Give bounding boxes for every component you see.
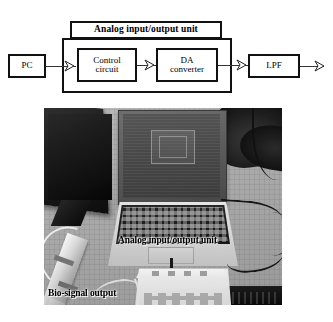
analog-unit-indicator-lights	[152, 271, 210, 276]
block-lpf-label: LPF	[266, 61, 282, 70]
block-control-circuit-label-line2: circuit	[93, 65, 121, 74]
block-pc: PC	[8, 54, 46, 78]
photo-label-analog-unit: Analog input/output unit	[118, 235, 217, 245]
external-monitor-screen	[48, 114, 112, 200]
analog-unit-group-title-label: Analog input/output unit	[94, 25, 198, 35]
block-diagram: PC Control circuit DA converter LPF Anal…	[0, 0, 333, 105]
arrow-output-icon	[312, 58, 328, 74]
block-pc-label: PC	[21, 61, 32, 70]
block-control-circuit: Control circuit	[77, 48, 137, 82]
arrow-da-to-lpf-icon	[234, 57, 250, 73]
analog-unit-buttons	[144, 293, 222, 305]
photo-label-bio-signal-output: Bio-signal output	[48, 288, 116, 298]
block-da-converter-label-line2: converter	[170, 65, 204, 74]
laptop-screen-window-inner	[159, 136, 187, 158]
block-lpf: LPF	[248, 54, 300, 78]
arrow-pc-to-control-icon	[62, 58, 78, 74]
block-da-converter: DA converter	[156, 48, 218, 82]
setup-photograph: Analog input/output unit Bio-signal outp…	[44, 108, 282, 305]
analog-unit-group-title: Analog input/output unit	[70, 21, 222, 39]
arrow-control-to-da-icon	[142, 57, 158, 73]
